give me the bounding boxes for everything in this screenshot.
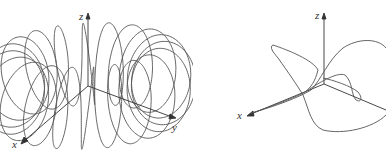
y-axis [88,86,172,117]
toroidal-spiral-plot: z y x [0,0,193,153]
x-axis-label: x [236,109,242,121]
x-axis [24,86,88,141]
y-axis-label: y [171,121,177,133]
z-axis-label: z [314,9,320,21]
y-axis [324,84,386,110]
z-axis-label: z [78,10,84,22]
twisted-curve-plot: z x [193,0,386,153]
figure-twisted-curve: z x [193,0,386,153]
z-axis-arrow-icon [322,13,326,19]
x-axis-arrow-icon [247,111,254,116]
x-axis-label: x [11,138,17,150]
axes [247,13,386,116]
figure-toroidal-spiral: z y x [0,0,193,153]
spiral-curve [0,23,193,150]
z-axis-arrow-icon [86,13,90,19]
